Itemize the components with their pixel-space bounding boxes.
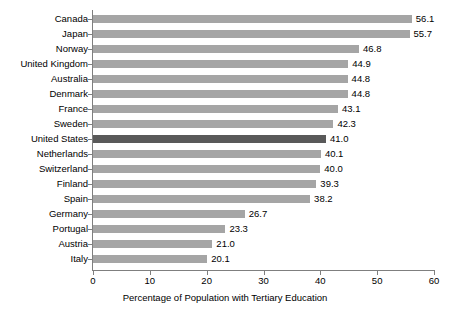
bar: [93, 105, 338, 113]
bar: [93, 15, 412, 23]
bar-value-label: 21.0: [216, 236, 235, 251]
bar-value-label: 43.1: [342, 101, 361, 116]
bar-row: Norway46.8: [0, 41, 450, 56]
bar-highlighted: [93, 135, 326, 143]
category-label: Japan: [0, 26, 88, 41]
y-axis-tick: [88, 199, 92, 200]
bar-row: Italy20.1: [0, 251, 450, 266]
y-axis-tick: [88, 139, 92, 140]
bar-value-label: 39.3: [320, 176, 339, 191]
bar-value-label: 38.2: [314, 191, 333, 206]
category-label: Portugal: [0, 221, 88, 236]
y-axis-tick: [88, 259, 92, 260]
category-label: Australia: [0, 71, 88, 86]
x-axis-tick-label: 50: [357, 275, 397, 286]
bar-value-label: 41.0: [330, 131, 349, 146]
category-label: United Kingdom: [0, 56, 88, 71]
category-label: Spain: [0, 191, 88, 206]
x-axis-tick-label: 10: [130, 275, 170, 286]
x-axis-title: Percentage of Population with Tertiary E…: [0, 292, 450, 303]
bar-row: Spain38.2: [0, 191, 450, 206]
bar: [93, 75, 348, 83]
bar: [93, 60, 348, 68]
bar: [93, 45, 359, 53]
bar: [93, 90, 348, 98]
bar: [93, 225, 225, 233]
bar-row: Denmark44.8: [0, 86, 450, 101]
bar-value-label: 26.7: [249, 206, 268, 221]
x-axis-tick-label: 30: [244, 275, 284, 286]
bar: [93, 210, 245, 218]
bar-row: Finland39.3: [0, 176, 450, 191]
bar: [93, 255, 207, 263]
bar-row: Switzerland40.0: [0, 161, 450, 176]
y-axis-tick: [88, 229, 92, 230]
category-label: Canada: [0, 11, 88, 26]
bar: [93, 150, 321, 158]
bar-row: Netherlands40.1: [0, 146, 450, 161]
bar-value-label: 42.3: [337, 116, 356, 131]
y-axis-tick: [88, 64, 92, 65]
bar-chart: Canada56.1Japan55.7Norway46.8United King…: [0, 0, 450, 313]
x-axis-tick-label: 20: [187, 275, 227, 286]
y-axis-tick: [88, 49, 92, 50]
bar: [93, 180, 316, 188]
bar-row: Germany26.7: [0, 206, 450, 221]
bar-row: United Kingdom44.9: [0, 56, 450, 71]
bar-value-label: 40.1: [325, 146, 344, 161]
bar-value-label: 44.8: [352, 86, 371, 101]
bar-row: Japan55.7: [0, 26, 450, 41]
y-axis-tick: [88, 169, 92, 170]
bar-row: Australia44.8: [0, 71, 450, 86]
bar-value-label: 40.0: [324, 161, 343, 176]
bar: [93, 30, 410, 38]
category-label: Austria: [0, 236, 88, 251]
bar-row: Canada56.1: [0, 11, 450, 26]
bar-value-label: 46.8: [363, 41, 382, 56]
x-axis-tick-label: 0: [73, 275, 113, 286]
bar: [93, 165, 320, 173]
y-axis-tick: [88, 19, 92, 20]
category-label: Denmark: [0, 86, 88, 101]
bar-value-label: 55.7: [414, 26, 433, 41]
bar-row: France43.1: [0, 101, 450, 116]
y-axis-tick: [88, 184, 92, 185]
category-label: Switzerland: [0, 161, 88, 176]
bar: [93, 240, 212, 248]
bar-value-label: 44.9: [352, 56, 371, 71]
category-label: United States: [0, 131, 88, 146]
bar-row: United States41.0: [0, 131, 450, 146]
y-axis-tick: [88, 214, 92, 215]
category-label: Netherlands: [0, 146, 88, 161]
bar-row: Sweden42.3: [0, 116, 450, 131]
bar: [93, 195, 310, 203]
bar-value-label: 20.1: [211, 251, 230, 266]
x-axis-tick-label: 40: [300, 275, 340, 286]
x-axis-tick-label: 60: [414, 275, 450, 286]
y-axis-tick: [88, 124, 92, 125]
bar-row: Austria21.0: [0, 236, 450, 251]
bar-value-label: 56.1: [416, 11, 435, 26]
category-label: France: [0, 101, 88, 116]
plot-area: Canada56.1Japan55.7Norway46.8United King…: [0, 0, 450, 313]
bar-value-label: 23.3: [229, 221, 248, 236]
category-label: Germany: [0, 206, 88, 221]
category-label: Italy: [0, 251, 88, 266]
category-label: Norway: [0, 41, 88, 56]
y-axis-tick: [88, 154, 92, 155]
y-axis-tick: [88, 109, 92, 110]
y-axis-tick: [88, 244, 92, 245]
category-label: Sweden: [0, 116, 88, 131]
y-axis-tick: [88, 94, 92, 95]
bar-value-label: 44.8: [352, 71, 371, 86]
y-axis-tick: [88, 34, 92, 35]
y-axis-tick: [88, 79, 92, 80]
category-label: Finland: [0, 176, 88, 191]
bar: [93, 120, 333, 128]
bar-row: Portugal23.3: [0, 221, 450, 236]
